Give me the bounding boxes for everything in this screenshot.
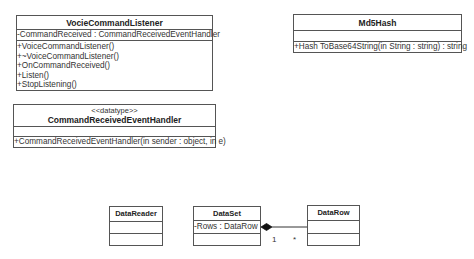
composition-diamond-icon [261, 224, 272, 231]
composition-connector[interactable] [0, 0, 474, 259]
target-multiplicity: * [293, 235, 296, 244]
source-multiplicity: 1 [272, 235, 276, 244]
